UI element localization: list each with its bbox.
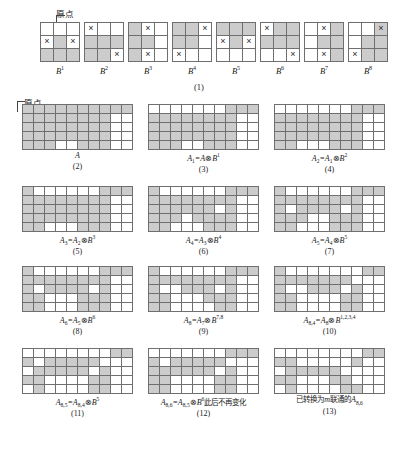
grid-cell xyxy=(261,23,274,36)
grid-cell xyxy=(89,105,100,114)
grid-cell xyxy=(171,376,182,385)
origin-leader-line-a xyxy=(17,101,18,112)
structuring-element-b2: B2 xyxy=(82,22,126,75)
grid-cell xyxy=(217,49,230,62)
structuring-element-grid xyxy=(128,22,168,62)
grid-cell xyxy=(330,358,341,367)
grid-cell xyxy=(100,187,111,196)
grid-cell xyxy=(275,376,286,385)
grid-cell xyxy=(122,205,133,214)
grid-cell xyxy=(308,223,319,232)
grid-cell xyxy=(171,141,182,150)
grid-cell xyxy=(160,214,171,223)
grid-cell xyxy=(215,276,226,285)
structuring-element-b6: B6 xyxy=(258,22,302,75)
grid-cell xyxy=(243,36,256,49)
grid-cell xyxy=(308,367,319,376)
grid-cell xyxy=(341,196,352,205)
grid-cell xyxy=(193,223,204,232)
grid-cell xyxy=(362,36,375,49)
grid-cell xyxy=(215,267,226,276)
matrix-grid xyxy=(22,266,133,312)
grid-cell xyxy=(215,105,226,114)
grid-cell xyxy=(149,358,160,367)
grid-cell xyxy=(352,294,363,303)
grid-cell xyxy=(275,385,286,394)
grid-cell xyxy=(308,385,319,394)
grid-cell xyxy=(286,196,297,205)
grid-cell xyxy=(341,294,352,303)
grid-cell xyxy=(226,114,237,123)
grid-cell xyxy=(330,187,341,196)
grid-row xyxy=(275,303,385,312)
structuring-element-label: B5 xyxy=(232,65,240,75)
structuring-element-grid xyxy=(40,22,80,62)
grid-cell xyxy=(67,105,78,114)
grid-cell xyxy=(89,267,100,276)
matrix-panel-a5: A5=A4⊗B5(7) xyxy=(274,186,385,256)
grid-row xyxy=(23,349,133,358)
grid-row xyxy=(149,196,259,205)
structuring-element-grid xyxy=(304,22,344,62)
grid-cell xyxy=(100,276,111,285)
grid-row xyxy=(349,36,388,49)
grid-cell xyxy=(237,294,248,303)
grid-cell xyxy=(67,187,78,196)
grid-cell xyxy=(330,303,341,312)
grid-cell xyxy=(182,214,193,223)
grid-cell xyxy=(226,132,237,141)
grid-cell xyxy=(275,367,286,376)
grid-cell xyxy=(375,23,388,36)
grid-cell xyxy=(215,187,226,196)
grid-cell xyxy=(56,285,67,294)
grid-cell xyxy=(319,367,330,376)
grid-cell xyxy=(160,141,171,150)
grid-cell xyxy=(100,285,111,294)
grid-cell xyxy=(374,205,385,214)
grid-row xyxy=(305,49,344,62)
grid-cell xyxy=(89,367,100,376)
matrix-caption: A1=A⊗B1 xyxy=(148,152,259,164)
matrix-grid xyxy=(22,104,133,150)
grid-cell xyxy=(352,187,363,196)
grid-cell xyxy=(89,294,100,303)
grid-cell xyxy=(330,114,341,123)
grid-cell xyxy=(308,267,319,276)
origin-leader-hook-a xyxy=(17,101,25,102)
grid-cell xyxy=(67,141,78,150)
grid-row xyxy=(23,294,133,303)
grid-cell xyxy=(330,376,341,385)
grid-cell xyxy=(45,276,56,285)
grid-cell xyxy=(78,196,89,205)
grid-cell xyxy=(67,36,80,49)
grid-cell xyxy=(275,294,286,303)
grid-cell xyxy=(122,196,133,205)
grid-cell xyxy=(67,349,78,358)
grid-cell xyxy=(215,141,226,150)
grid-cell xyxy=(171,358,182,367)
grid-row xyxy=(261,49,300,62)
structuring-elements-row: B1B2B3B4B5B6B7B8 xyxy=(0,22,398,75)
grid-cell xyxy=(374,303,385,312)
grid-row xyxy=(129,49,168,62)
grid-cell xyxy=(23,385,34,394)
grid-cell xyxy=(100,141,111,150)
grid-cell xyxy=(215,358,226,367)
caption-section-1: (1) xyxy=(0,82,398,92)
grid-cell xyxy=(308,276,319,285)
grid-cell xyxy=(215,123,226,132)
grid-cell xyxy=(45,105,56,114)
grid-cell xyxy=(45,214,56,223)
grid-cell xyxy=(237,385,248,394)
grid-cell xyxy=(374,367,385,376)
grid-cell xyxy=(193,214,204,223)
grid-cell xyxy=(230,23,243,36)
grid-cell xyxy=(149,376,160,385)
grid-cell xyxy=(100,349,111,358)
grid-cell xyxy=(23,114,34,123)
grid-cell xyxy=(352,132,363,141)
grid-cell xyxy=(297,132,308,141)
grid-row xyxy=(85,36,124,49)
grid-cell xyxy=(248,105,259,114)
grid-cell xyxy=(193,114,204,123)
